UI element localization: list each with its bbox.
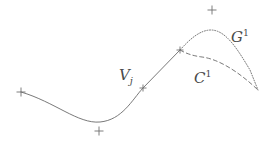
c1-dashed-curve <box>180 50 258 90</box>
control-point-left <box>17 88 26 97</box>
curve-label-g1-superscript: 1 <box>243 27 249 38</box>
vertex-label-vj-base: V <box>119 66 130 84</box>
curve-label-c1: C1 <box>194 69 211 86</box>
curve-continuity-figure: G1 C1 Vj <box>0 0 270 143</box>
curve-label-c1-superscript: 1 <box>205 68 211 79</box>
curve-label-g1: G1 <box>231 28 249 45</box>
vertex-label-vj: Vj <box>119 68 133 86</box>
curve-label-c1-base: C <box>194 69 205 87</box>
base-solid-curve <box>21 50 180 122</box>
figure-canvas <box>0 0 270 143</box>
curves-group <box>21 30 258 122</box>
control-point-top <box>208 6 217 15</box>
curve-label-g1-base: G <box>231 28 243 46</box>
control-point-bottom <box>95 127 104 136</box>
vertex-label-vj-subscript: j <box>130 75 133 86</box>
